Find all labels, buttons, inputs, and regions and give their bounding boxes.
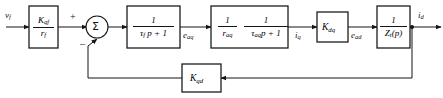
block-tauaq-denominator: τaqp + 1 <box>244 26 288 39</box>
block-raq-numerator: 1 <box>218 15 237 26</box>
block-kqf-numerator: Kqf <box>33 15 54 27</box>
signal-label-eaq: eaq <box>183 31 194 41</box>
block-zt-denominator: Zt(p) <box>380 26 407 39</box>
signal-label-output: id <box>418 11 424 21</box>
block-tauaq-numerator: 1 <box>244 15 288 26</box>
sigma-symbol: Σ <box>92 21 99 32</box>
sum-plus-sign: + <box>70 12 76 22</box>
signal-label-iq: iq <box>295 31 301 41</box>
block-raq-denominator: raq <box>218 26 237 39</box>
wire-into-sum-minus <box>88 39 97 46</box>
output-junction-dot <box>410 25 414 29</box>
block-zt-numerator: 1 <box>380 15 407 26</box>
block-kqd-label: Kqd <box>190 73 203 84</box>
block-tauaq-fraction: 1 τaqp + 1 <box>244 15 288 39</box>
block-diagram: vf eaq iq ead id Σ + – Kqf rf 1 τf p + 1… <box>0 0 443 98</box>
block-tauf-numerator: 1 <box>133 15 174 26</box>
signal-label-ead: ead <box>351 31 362 41</box>
block-tauf-denominator: τf p + 1 <box>133 26 174 39</box>
block-kqf-rf-label: Kqf rf <box>33 15 54 39</box>
block-kdq-label: Kdq <box>322 22 335 33</box>
block-zt-label: 1 Zt(p) <box>380 15 407 39</box>
block-kqf-denominator: rf <box>33 27 54 40</box>
signal-label-input: vf <box>5 11 11 21</box>
block-tauf-lag-label: 1 τf p + 1 <box>133 15 174 39</box>
block-raq-tauaq-label: 1 raq 1 τaqp + 1 <box>218 15 288 39</box>
block-raq-fraction: 1 raq <box>218 15 237 39</box>
sum-minus-sign: – <box>80 39 85 49</box>
